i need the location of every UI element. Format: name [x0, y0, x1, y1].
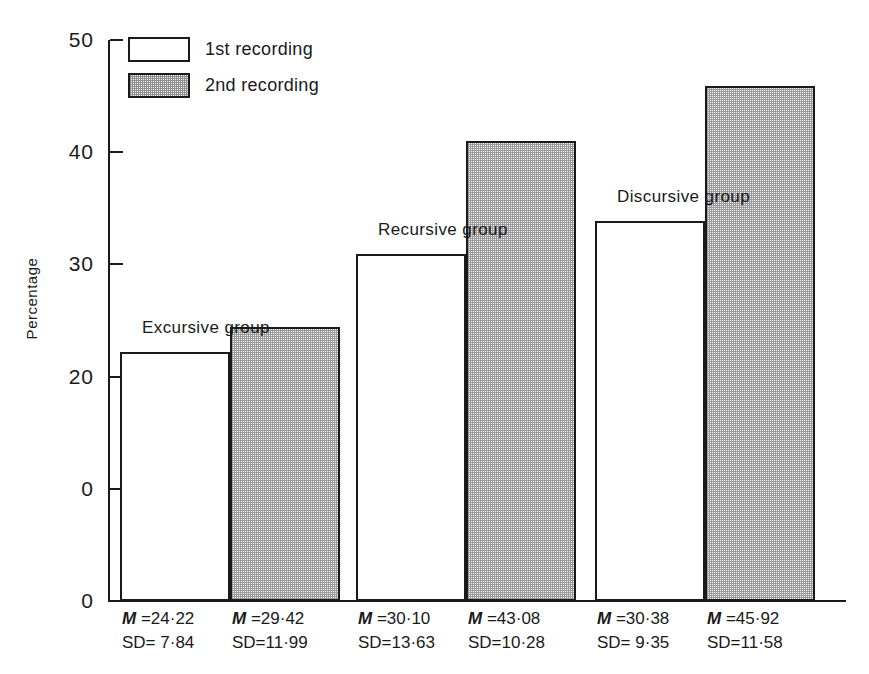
y-tick-label: 30	[46, 253, 94, 274]
y-tick-label: 0	[46, 478, 94, 499]
bar-stats: M =45·92SD=11·58	[707, 607, 817, 655]
y-tick-label: 20	[46, 366, 94, 387]
bar-mean: M =29·42	[232, 607, 342, 631]
bar-mean: M =45·92	[707, 607, 817, 631]
bar-stats: M =43·08SD=10·28	[468, 607, 578, 655]
bar-1st-recording	[595, 221, 705, 601]
bar-sd: SD=13·63	[358, 631, 468, 655]
legend: 1st recording 2nd recording	[128, 36, 319, 108]
y-tick-label: 40	[46, 141, 94, 162]
bar-stats: M =30·38SD= 9·35	[597, 607, 707, 655]
y-tick-label: 0	[46, 590, 94, 611]
group-title: Recursive group	[378, 220, 508, 240]
bar-sd: SD= 7·84	[122, 631, 232, 655]
bar-2nd-recording	[466, 141, 576, 601]
bar-sd: SD=11·99	[232, 631, 342, 655]
legend-label-2nd-recording: 2nd recording	[205, 75, 319, 96]
legend-swatch-stipple-icon	[128, 73, 190, 98]
bar-mean: M =30·10	[358, 607, 468, 631]
y-axis-title: Percentage	[23, 239, 40, 359]
legend-label-1st-recording: 1st recording	[205, 39, 313, 60]
bar-sd: SD=10·28	[468, 631, 578, 655]
bar-2nd-recording	[230, 327, 340, 601]
bar-1st-recording	[356, 254, 466, 601]
bar-chart-figure: Percentage 5040302000 Excursive groupRec…	[0, 0, 869, 674]
legend-swatch-open-icon	[128, 37, 190, 62]
bar-mean: M =30·38	[597, 607, 707, 631]
bar-stats: M =29·42SD=11·99	[232, 607, 342, 655]
bar-1st-recording	[120, 352, 230, 601]
bar-sd: SD= 9·35	[597, 631, 707, 655]
bar-sd: SD=11·58	[707, 631, 817, 655]
bar-stats: M =30·10SD=13·63	[358, 607, 468, 655]
y-tick-label: 50	[46, 29, 94, 50]
group-title: Discursive group	[617, 187, 750, 207]
bar-mean: M =24·22	[122, 607, 232, 631]
bar-2nd-recording	[705, 86, 815, 601]
bar-stats: M =24·22SD= 7·84	[122, 607, 232, 655]
legend-item-2nd-recording: 2nd recording	[128, 72, 319, 99]
group-title: Excursive group	[142, 318, 270, 338]
legend-item-1st-recording: 1st recording	[128, 36, 319, 63]
bar-mean: M =43·08	[468, 607, 578, 631]
